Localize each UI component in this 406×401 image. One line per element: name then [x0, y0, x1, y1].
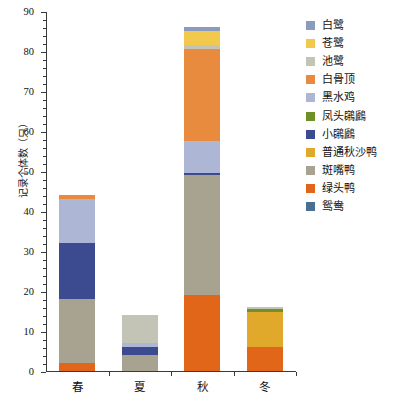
bar-segment[interactable]	[247, 309, 283, 312]
y-tick: 30	[41, 252, 46, 253]
legend-swatch-icon	[306, 202, 315, 211]
stacked-bar-0[interactable]	[59, 195, 95, 371]
legend-label: 黑水鸡	[322, 92, 355, 103]
x-tick	[234, 372, 235, 376]
y-tick-minor	[43, 156, 46, 157]
y-tick-minor	[43, 100, 46, 101]
bar-segment[interactable]	[184, 141, 220, 173]
y-tick-label: 60	[24, 127, 35, 138]
bar-segment[interactable]	[184, 173, 220, 175]
y-tick-minor	[43, 20, 46, 21]
legend-label: 凤头鸊鷉	[322, 111, 366, 122]
y-tick-label: 50	[24, 167, 35, 178]
bar-segment[interactable]	[59, 243, 95, 299]
bar-segment[interactable]	[247, 312, 283, 347]
y-tick-minor	[43, 348, 46, 349]
bar-segment[interactable]	[122, 315, 158, 343]
legend-item-7[interactable]: 普通秋沙鸭	[306, 143, 406, 161]
x-tick	[109, 372, 110, 376]
y-tick: 40	[41, 212, 46, 213]
y-tick: 80	[41, 52, 46, 53]
y-tick-minor	[43, 28, 46, 29]
legend-item-8[interactable]: 斑嘴鸭	[306, 162, 406, 180]
y-tick: 70	[41, 92, 46, 93]
bar-segment[interactable]	[122, 355, 158, 371]
legend-swatch-icon	[306, 75, 315, 84]
y-tick-minor	[43, 196, 46, 197]
y-tick-label: 10	[24, 327, 35, 338]
bar-segment[interactable]	[59, 363, 95, 371]
legend-item-3[interactable]: 白骨顶	[306, 71, 406, 89]
plot-area: 0102030405060708090 春夏秋冬	[46, 12, 296, 372]
legend-swatch-icon	[306, 57, 315, 66]
legend-item-5[interactable]: 凤头鸊鷉	[306, 107, 406, 125]
legend-label: 白鹭	[322, 20, 344, 31]
y-tick-label: 70	[24, 87, 35, 98]
y-tick-minor	[43, 340, 46, 341]
y-tick-minor	[43, 124, 46, 125]
y-tick-minor	[43, 268, 46, 269]
y-tick-minor	[43, 324, 46, 325]
y-tick-minor	[43, 236, 46, 237]
stacked-bar-2[interactable]	[184, 25, 220, 371]
legend-item-9[interactable]: 绿头鸭	[306, 180, 406, 198]
y-tick: 20	[41, 292, 46, 293]
bar-segment[interactable]	[247, 307, 283, 309]
bar-segment[interactable]	[59, 299, 95, 363]
y-tick-label: 30	[24, 247, 35, 258]
bar-segment[interactable]	[184, 175, 220, 295]
y-tick-minor	[43, 260, 46, 261]
legend-label: 小鸊鷉	[322, 129, 355, 140]
y-tick-label: 90	[24, 7, 35, 18]
bar-segment[interactable]	[184, 31, 220, 45]
legend-item-6[interactable]: 小鸊鷉	[306, 125, 406, 143]
y-tick-minor	[43, 116, 46, 117]
y-tick-minor	[43, 148, 46, 149]
bar-segment[interactable]	[122, 347, 158, 355]
y-tick-minor	[43, 276, 46, 277]
legend-item-2[interactable]: 池鹭	[306, 52, 406, 70]
y-tick-minor	[43, 108, 46, 109]
stacked-bar-3[interactable]	[247, 307, 283, 371]
legend-swatch-icon	[306, 21, 315, 30]
y-tick-minor	[43, 140, 46, 141]
legend-item-4[interactable]: 黑水鸡	[306, 89, 406, 107]
y-tick-minor	[43, 220, 46, 221]
y-axis-line	[46, 12, 47, 372]
legend-label: 苍鹭	[322, 38, 344, 49]
legend-item-10[interactable]: 鸳鸯	[306, 198, 406, 216]
y-tick-label: 20	[24, 287, 35, 298]
bar-segment[interactable]	[59, 195, 95, 199]
x-tick-label-0: 春	[72, 378, 83, 394]
x-tick-label-2: 秋	[197, 378, 208, 394]
bar-segment[interactable]	[184, 49, 220, 141]
y-tick-label: 0	[29, 367, 34, 378]
y-tick-minor	[43, 60, 46, 61]
legend-item-1[interactable]: 苍鹭	[306, 34, 406, 52]
bar-segment[interactable]	[184, 295, 220, 371]
y-tick-minor	[43, 180, 46, 181]
y-tick-minor	[43, 68, 46, 69]
legend-label: 绿头鸭	[322, 183, 355, 194]
bar-segment[interactable]	[122, 343, 158, 347]
y-tick: 10	[41, 332, 46, 333]
legend-swatch-icon	[306, 112, 315, 121]
y-tick: 0	[41, 372, 46, 373]
legend-label: 鸳鸯	[322, 201, 344, 212]
y-tick-label: 40	[24, 207, 35, 218]
legend: 白鹭苍鹭池鹭白骨顶黑水鸡凤头鸊鷉小鸊鷉普通秋沙鸭斑嘴鸭绿头鸭鸳鸯	[306, 16, 406, 216]
legend-swatch-icon	[306, 39, 315, 48]
bar-segment[interactable]	[59, 199, 95, 243]
y-tick-minor	[43, 244, 46, 245]
bar-segment[interactable]	[247, 347, 283, 371]
y-tick-minor	[43, 300, 46, 301]
bar-segment[interactable]	[184, 27, 220, 31]
legend-label: 白骨顶	[322, 74, 355, 85]
stacked-bar-1[interactable]	[122, 315, 158, 371]
y-tick-minor	[43, 84, 46, 85]
bar-segment[interactable]	[184, 45, 220, 49]
y-tick-minor	[43, 356, 46, 357]
y-tick-minor	[43, 188, 46, 189]
legend-item-0[interactable]: 白鹭	[306, 16, 406, 34]
x-tick	[171, 372, 172, 376]
